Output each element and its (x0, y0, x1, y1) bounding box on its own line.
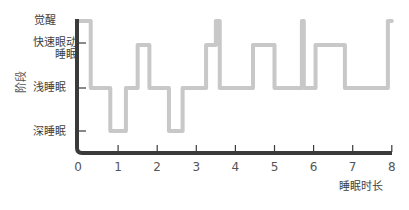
x-tick-label: 1 (110, 160, 126, 174)
x-tick-label: 0 (70, 160, 86, 174)
sleep-stage-curve (79, 21, 392, 131)
y-label-light: 浅睡眠 (33, 82, 66, 94)
y-label-rem: 快速眼动 睡眠 (33, 37, 77, 61)
x-tick-label: 6 (306, 160, 322, 174)
y-label-deep: 深睡眠 (33, 126, 66, 138)
y-label-rem-line2: 睡眠 (33, 49, 77, 61)
x-axis-ticks (118, 145, 392, 152)
x-tick-label: 4 (227, 160, 243, 174)
figure-caption-cutoff (130, 204, 280, 210)
y-label-awake: 觉醒 (34, 15, 56, 27)
x-tick-label: 8 (384, 160, 400, 174)
x-tick-label: 2 (149, 160, 165, 174)
x-tick-label: 7 (345, 160, 361, 174)
x-axis-title: 睡眠时长 (339, 177, 383, 193)
y-axis-ticks (79, 43, 86, 131)
x-tick-label: 5 (267, 160, 283, 174)
x-tick-label: 3 (188, 160, 204, 174)
y-axis-title: 阶段 (12, 70, 28, 94)
